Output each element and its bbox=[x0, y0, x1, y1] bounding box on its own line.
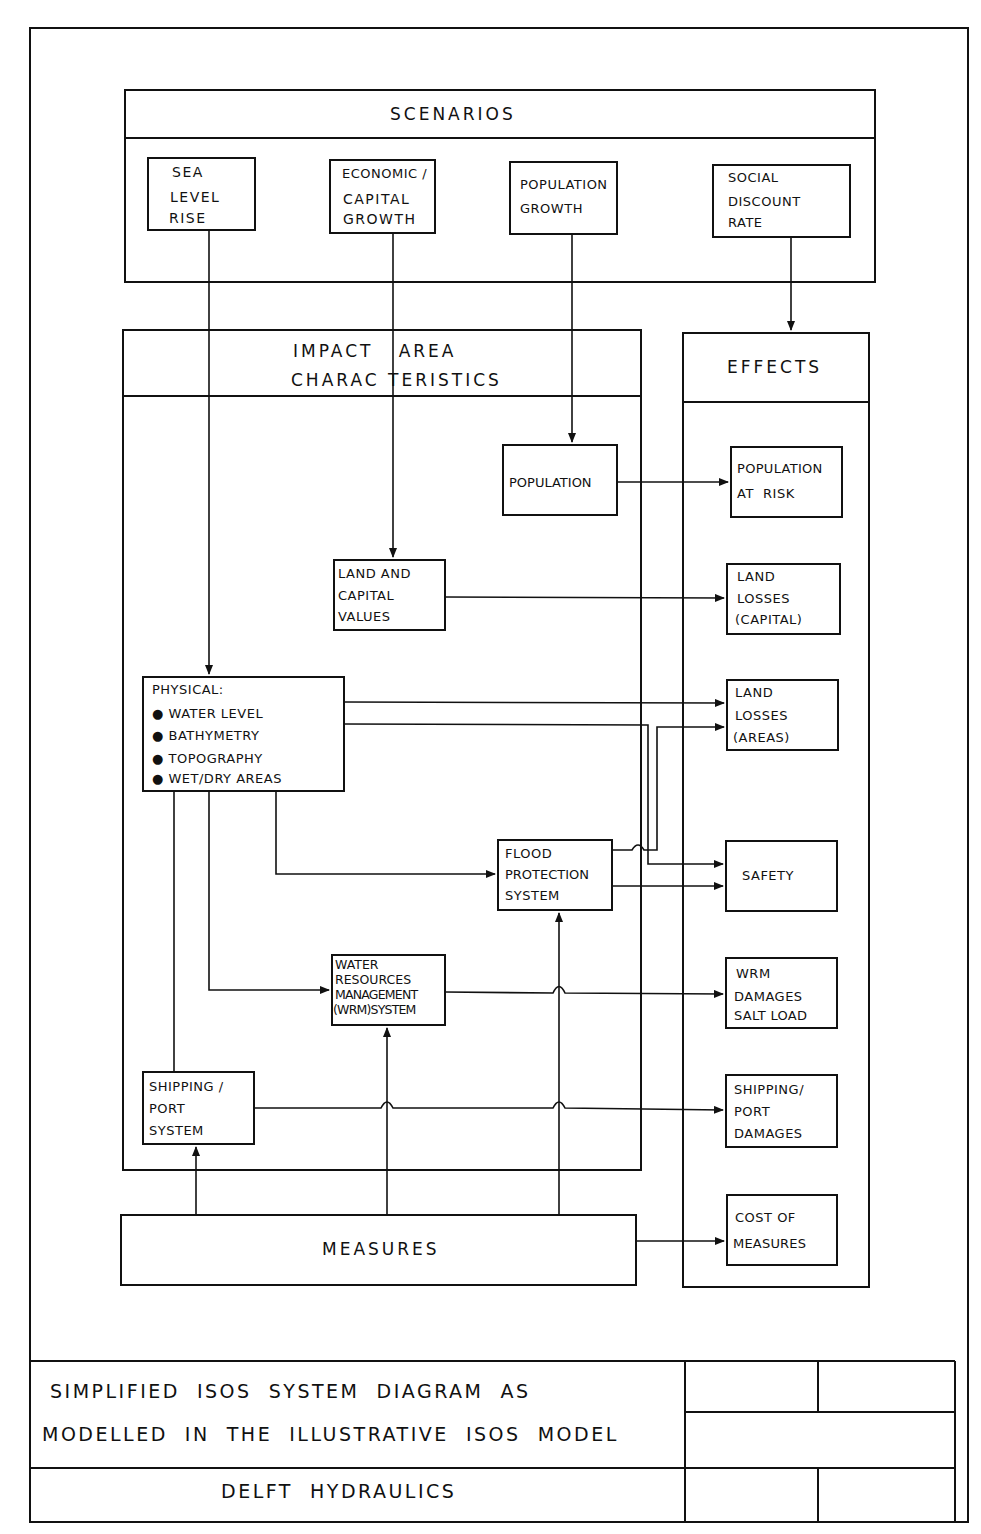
bullet-wet-dry-areas: ● WET/DRY AREAS bbox=[152, 772, 282, 785]
effect-land-losses-capital: LAND LOSSES (CAPITAL) bbox=[727, 564, 840, 634]
label-line: MEASURES bbox=[733, 1237, 806, 1250]
label-line: SYSTEM bbox=[149, 1124, 204, 1137]
label-line: FLOOD bbox=[505, 847, 552, 860]
label-line: DAMAGES bbox=[734, 990, 803, 1003]
label-line: PROTECTION bbox=[505, 868, 589, 881]
label-line: (CAPITAL) bbox=[735, 613, 802, 626]
effect-population-at-risk: POPULATION AT RISK bbox=[731, 447, 842, 517]
organization-label: DELFT HYDRAULICS bbox=[221, 1482, 456, 1501]
physical-heading: PHYSICAL: bbox=[152, 683, 224, 696]
bullet-text: WET/DRY AREAS bbox=[168, 771, 281, 786]
scenario-social-discount-rate: SOCIAL DISCOUNT RATE bbox=[713, 165, 850, 237]
label-line: WRM bbox=[736, 967, 771, 980]
wrm-system-box: WATER RESOURCES MANAGEMENT (WRM)SYSTEM bbox=[332, 955, 445, 1025]
effect-land-losses-areas: LAND LOSSES (AREAS) bbox=[727, 680, 838, 750]
label-line: SHIPPING/ bbox=[734, 1083, 804, 1096]
effect-wrm-damages: WRM DAMAGES SALT LOAD bbox=[726, 958, 837, 1028]
bullet-text: WATER LEVEL bbox=[168, 706, 263, 721]
impact-area-title-line1: IMPACT AREA bbox=[293, 343, 456, 360]
label-line: WATER bbox=[335, 959, 378, 972]
label-line: GROWTH bbox=[343, 212, 417, 226]
effect-cost-of-measures: COST OF MEASURES bbox=[727, 1195, 837, 1265]
bullet-bathymetry: ● BATHYMETRY bbox=[152, 729, 259, 742]
scenario-economic-capital-growth: ECONOMIC / CAPITAL GROWTH bbox=[330, 160, 435, 233]
label-line: PORT bbox=[149, 1102, 185, 1115]
label-line: RESOURCES bbox=[335, 974, 411, 987]
label-line: RATE bbox=[728, 216, 763, 229]
effect-safety: SAFETY bbox=[726, 841, 837, 911]
impact-area-title-line2: CHARAC TERISTICS bbox=[291, 372, 502, 389]
bullet-text: BATHYMETRY bbox=[168, 728, 259, 743]
bullet-topography: ● TOPOGRAPHY bbox=[152, 752, 263, 765]
label-line: POPULATION bbox=[737, 462, 823, 475]
scenario-sea-level-rise: SEA LEVEL RISE bbox=[148, 158, 255, 230]
label-line: (WRM)SYSTEM bbox=[333, 1004, 416, 1017]
label-line: LAND AND bbox=[338, 567, 411, 580]
caption-line2: MODELLED IN THE ILLUSTRATIVE ISOS MODEL bbox=[42, 1425, 619, 1444]
label-line: POPULATION bbox=[520, 178, 608, 191]
land-capital-values-box: LAND AND CAPITAL VALUES bbox=[334, 560, 445, 630]
label-line: AT RISK bbox=[737, 487, 795, 500]
bullet-water-level: ● WATER LEVEL bbox=[152, 707, 263, 720]
bullet-text: TOPOGRAPHY bbox=[168, 751, 262, 766]
flood-protection-box: FLOOD PROTECTION SYSTEM bbox=[498, 840, 612, 910]
label-line: RISE bbox=[169, 211, 207, 225]
effect-shipping-port-damages: SHIPPING/ PORT DAMAGES bbox=[726, 1075, 837, 1147]
caption-line1: SIMPLIFIED ISOS SYSTEM DIAGRAM AS bbox=[50, 1382, 531, 1401]
shipping-port-box: SHIPPING / PORT SYSTEM bbox=[143, 1072, 254, 1144]
label-line: PORT bbox=[734, 1105, 770, 1118]
label-line: LEVEL bbox=[170, 190, 220, 204]
label-line: GROWTH bbox=[520, 202, 583, 215]
label-line: COST OF bbox=[735, 1211, 796, 1224]
scenario-population-growth: POPULATION GROWTH bbox=[510, 162, 617, 234]
label-line: LOSSES bbox=[737, 592, 790, 605]
population-box: POPULATION bbox=[509, 476, 592, 489]
label-line: SHIPPING / bbox=[149, 1080, 224, 1093]
label-line: CAPITAL bbox=[343, 192, 410, 206]
label-line: SALT LOAD bbox=[734, 1009, 807, 1022]
measures-box: MEASURES bbox=[322, 1241, 440, 1258]
effects-title: EFFECTS bbox=[727, 359, 822, 376]
label-line: SEA bbox=[172, 165, 204, 179]
label-line: VALUES bbox=[338, 610, 391, 623]
label-line: LAND bbox=[735, 686, 773, 699]
label-line: DAMAGES bbox=[734, 1127, 803, 1140]
label-line: LOSSES bbox=[735, 709, 788, 722]
label-line: (AREAS) bbox=[733, 731, 790, 744]
label-line: CAPITAL bbox=[338, 589, 394, 602]
physical-box: PHYSICAL: ● WATER LEVEL ● BATHYMETRY ● T… bbox=[143, 677, 344, 791]
label-line: LAND bbox=[737, 570, 775, 583]
scenarios-title: SCENARIOS bbox=[390, 106, 516, 123]
label-line: DISCOUNT bbox=[728, 195, 801, 208]
label-line: ECONOMIC / bbox=[342, 167, 427, 180]
label-line: SAFETY bbox=[742, 869, 794, 882]
label-line: MANAGEMENT bbox=[335, 989, 417, 1002]
label-line: SYSTEM bbox=[505, 889, 560, 902]
label-line: SOCIAL bbox=[728, 171, 779, 184]
